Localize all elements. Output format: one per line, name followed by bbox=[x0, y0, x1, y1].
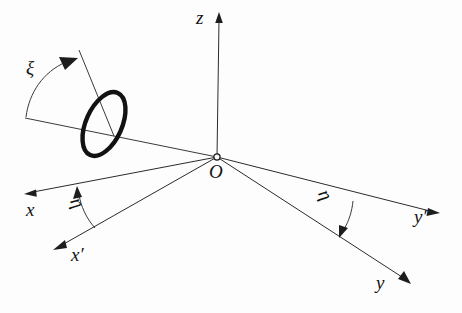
origin-label: O bbox=[209, 162, 223, 181]
z-axis-label: z bbox=[196, 8, 203, 27]
y-prime-axis-line bbox=[217, 157, 430, 211]
x-axis-label: x bbox=[26, 200, 34, 219]
x-prime-axis-label: x′ bbox=[71, 245, 84, 264]
y-axis-label: y bbox=[376, 273, 384, 292]
y-axis-group bbox=[217, 157, 411, 284]
y-axis-line bbox=[217, 157, 402, 277]
x-axis-group bbox=[24, 157, 217, 197]
z-axis-group bbox=[215, 12, 223, 157]
xi-angle-label: ξ bbox=[26, 58, 34, 77]
origin-marker bbox=[214, 154, 220, 160]
y-prime-axis-arrowhead bbox=[427, 208, 441, 216]
eta-right-angle-group bbox=[339, 201, 353, 238]
x-axis-arrowhead bbox=[24, 190, 37, 197]
z-axis-line bbox=[217, 20, 219, 157]
z-axis-arrowhead bbox=[215, 12, 223, 23]
coordinate-diagram-figure: z O x x′ y y′ ξ η η bbox=[0, 0, 462, 313]
y-prime-axis-label: y′ bbox=[414, 207, 427, 226]
eta-right-angle-arrowhead bbox=[339, 225, 348, 238]
x-prime-axis-arrowhead bbox=[53, 240, 67, 250]
diagram-canvas bbox=[0, 0, 462, 313]
eta-right-angle-arc bbox=[344, 201, 353, 229]
ring-ellipse bbox=[74, 86, 135, 163]
y-axis-arrowhead bbox=[398, 271, 411, 284]
x-axis-line bbox=[33, 157, 217, 192]
